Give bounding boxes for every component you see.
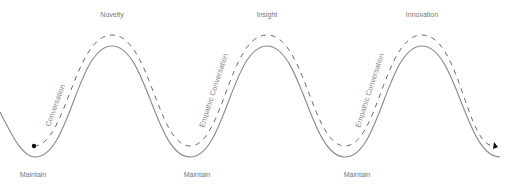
path-label-empathic-conversation-1: Empathic Conversation [197, 52, 230, 129]
peak-label-insight: Insight [257, 11, 278, 19]
trough-label-maintain-2: Maintain [184, 171, 211, 178]
start-dot-icon [32, 144, 36, 148]
dashed-wave-line [34, 35, 494, 146]
end-arrow-icon [493, 142, 498, 149]
peak-label-innovation: Innovation [406, 11, 438, 18]
trough-label-maintain-1: Maintain [20, 171, 47, 178]
wave-diagram: Novelty Insight Innovation Maintain Main… [0, 0, 532, 192]
peak-label-novelty: Novelty [100, 11, 124, 19]
path-label-conversation: Conversation [43, 83, 67, 128]
solid-wave-line [0, 46, 500, 157]
path-label-empathic-conversation-2: Empathic Conversation [353, 52, 386, 129]
trough-label-maintain-3: Maintain [344, 171, 371, 178]
